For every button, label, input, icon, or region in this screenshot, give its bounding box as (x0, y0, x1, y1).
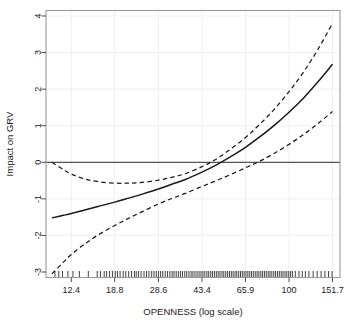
y-tick-label: 1 (33, 123, 43, 128)
y-tick-label: -3 (33, 268, 43, 276)
y-tick-label: 4 (33, 13, 43, 18)
x-axis-title: OPENNESS (log scale) (143, 306, 242, 317)
y-tick-label: 0 (33, 160, 43, 165)
chart-figure: -3-2-101234 12.418.828.643.465.9100151.7… (0, 0, 351, 322)
y-axis-title: Impact on GRV (4, 111, 15, 176)
y-tick-label: 3 (33, 50, 43, 55)
y-tick-label: -1 (33, 195, 43, 203)
chart-plot-area: -3-2-101234 12.418.828.643.465.9100151.7… (0, 0, 351, 322)
x-tick-label: 28.6 (150, 285, 168, 295)
x-tick-label: 12.4 (63, 285, 81, 295)
x-tick-label: 100 (282, 285, 297, 295)
y-tick-label: -2 (33, 231, 43, 239)
y-tick-label: 2 (33, 87, 43, 92)
x-tick-label: 151.7 (321, 285, 344, 295)
x-tick-label: 65.9 (237, 285, 255, 295)
x-tick-label: 43.4 (193, 285, 211, 295)
x-tick-label: 18.8 (106, 285, 124, 295)
